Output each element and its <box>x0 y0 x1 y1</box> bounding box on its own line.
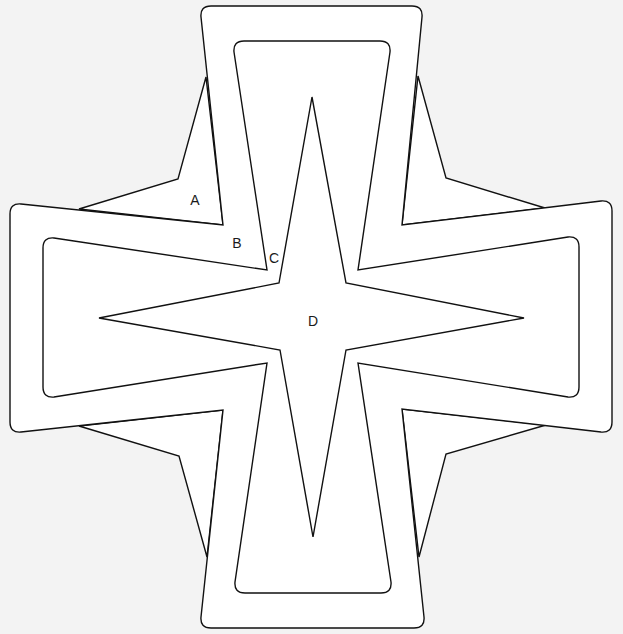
nested-cross-diagram: A B C D <box>0 0 623 634</box>
corner-triangle-bottom-right <box>402 409 546 557</box>
label-region-b: B <box>232 235 241 251</box>
corner-triangle-top-right <box>402 76 545 225</box>
corner-triangle-top-left <box>79 77 223 225</box>
label-region-d: D <box>308 313 318 329</box>
corner-triangle-bottom-left <box>79 410 223 557</box>
diagram-svg: A B C D <box>0 0 623 634</box>
label-region-c: C <box>269 250 279 266</box>
label-region-a: A <box>190 192 200 208</box>
